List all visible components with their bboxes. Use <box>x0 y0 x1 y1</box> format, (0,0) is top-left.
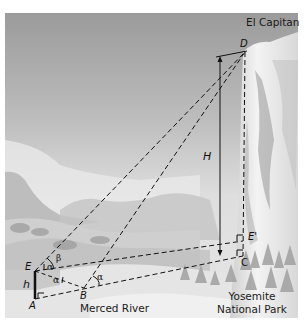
point-B-label: B <box>80 290 87 301</box>
point-C-label: C <box>241 257 248 268</box>
point-D-label: D <box>240 38 248 49</box>
angle-alpha-E-lower-label: α <box>53 275 59 285</box>
label-yosemite-line1: Yosemite <box>212 290 292 303</box>
angle-beta-label: β <box>56 253 61 263</box>
point-A-label: A <box>29 300 36 311</box>
label-el-capitan: El Capitan <box>246 16 299 29</box>
label-yosemite-line2: National Park <box>212 303 292 316</box>
point-E-prime-label: E' <box>248 231 257 242</box>
height-h-label: h <box>23 278 30 291</box>
angle-alpha-B-label: α <box>97 272 103 282</box>
top-margin <box>0 0 304 13</box>
angle-alpha-E-upper-label: α <box>47 262 53 272</box>
point-E-label: E <box>25 261 31 272</box>
height-H-label: H <box>203 150 211 163</box>
figure: El Capitan D H E' C E h A B β α α α Merc… <box>0 0 304 323</box>
label-yosemite: Yosemite National Park <box>212 290 292 316</box>
label-merced-river: Merced River <box>80 302 149 315</box>
landscape-scene <box>5 13 298 318</box>
